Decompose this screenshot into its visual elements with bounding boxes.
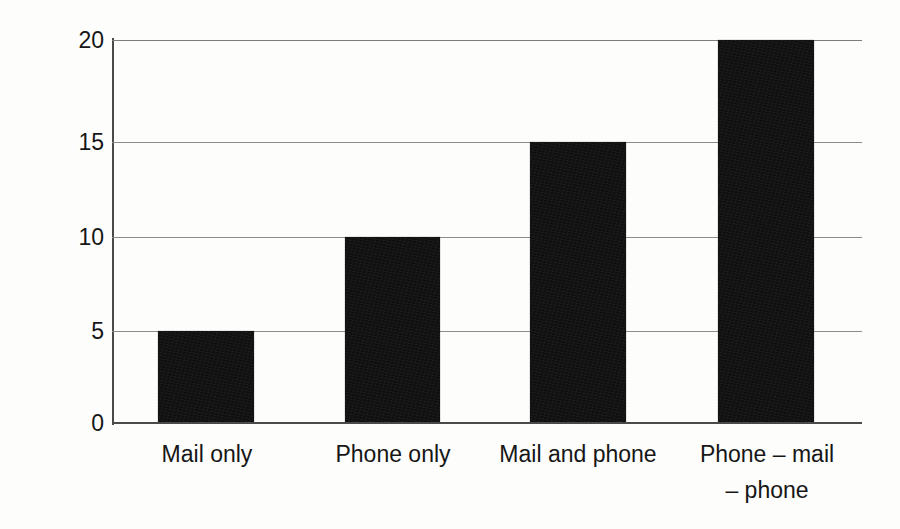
x-axis-category-labels: Mail only Phone only Mail and phone Phon… <box>112 436 862 526</box>
plot-area <box>112 40 862 423</box>
x-label-phone-only: Phone only <box>308 436 478 472</box>
bar-phone-mail-phone <box>718 40 814 423</box>
y-tick-0: 0 <box>60 412 104 435</box>
y-tick-20: 20 <box>60 29 104 52</box>
bar-mail-and-phone <box>530 142 626 423</box>
y-axis-tick-labels: 20 15 10 5 0 <box>58 0 104 529</box>
x-label-mail-and-phone: Mail and phone <box>478 436 678 472</box>
bar-mail-only <box>158 331 254 423</box>
x-axis-line <box>112 422 862 424</box>
bar-phone-only <box>345 237 440 423</box>
x-label-mail-only: Mail only <box>122 436 292 472</box>
y-tick-10: 10 <box>60 226 104 249</box>
y-tick-15: 15 <box>60 131 104 154</box>
x-label-phone-mail-phone: Phone – mail – phone <box>682 436 852 508</box>
y-tick-5: 5 <box>60 320 104 343</box>
chart-figure: Typical multiples achieved 20 15 10 5 0 … <box>0 0 900 529</box>
